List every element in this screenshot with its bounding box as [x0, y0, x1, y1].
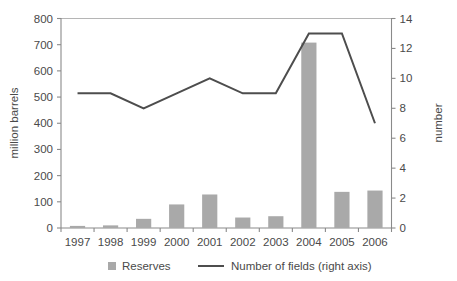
- legend-label-reserves: Reserves: [122, 260, 171, 272]
- reserves-bar: [268, 216, 283, 228]
- number-of-fields-line-series: [78, 33, 375, 123]
- reserves-bar: [136, 219, 151, 228]
- right-axis-tick-labels: 02468101214: [400, 13, 413, 235]
- reserves-bar: [169, 204, 184, 228]
- x-tick-label: 2001: [197, 236, 223, 248]
- reserves-bar: [202, 194, 217, 228]
- left-tick-label: 300: [34, 143, 53, 155]
- right-tick-label: 8: [400, 102, 406, 114]
- x-tick-label: 2000: [164, 236, 190, 248]
- x-tick-label: 2006: [362, 236, 388, 248]
- x-tick-label: 2004: [296, 236, 322, 248]
- right-axis-ticks: [392, 19, 396, 229]
- left-axis-title: million barrels: [8, 87, 20, 158]
- left-tick-label: 800: [34, 13, 53, 25]
- left-tick-label: 100: [34, 196, 53, 208]
- left-tick-label: 200: [34, 170, 53, 182]
- right-tick-label: 10: [400, 72, 413, 84]
- left-tick-label: 0: [47, 222, 53, 234]
- x-axis-tick-labels: 1997199819992000200120022003200420052006: [65, 236, 388, 248]
- right-tick-label: 6: [400, 132, 406, 144]
- right-axis-title: number: [432, 103, 444, 142]
- legend-label-number-of-fields: Number of fields (right axis): [231, 260, 372, 272]
- chart-legend: Reserves Number of fields (right axis): [108, 260, 372, 272]
- reserves-bar-series: [70, 43, 383, 228]
- reserves-bar: [301, 43, 316, 228]
- left-tick-label: 700: [34, 39, 53, 51]
- x-tick-label: 2003: [263, 236, 289, 248]
- x-tick-label: 2002: [230, 236, 256, 248]
- x-tick-label: 1999: [131, 236, 157, 248]
- x-tick-label: 2005: [329, 236, 355, 248]
- right-tick-label: 2: [400, 192, 406, 204]
- reserves-bar: [334, 192, 349, 228]
- left-tick-label: 500: [34, 91, 53, 103]
- legend-swatch-reserves: [108, 262, 116, 270]
- reserves-bar: [103, 225, 118, 228]
- right-tick-label: 0: [400, 222, 406, 234]
- x-tick-label: 1998: [98, 236, 124, 248]
- left-tick-label: 400: [34, 117, 53, 129]
- reserves-bar: [235, 218, 250, 228]
- left-tick-label: 600: [34, 65, 53, 77]
- right-tick-label: 4: [400, 162, 407, 174]
- chart-container: 0100200300400500600700800 02468101214 19…: [0, 0, 457, 281]
- reserves-and-fields-chart: 0100200300400500600700800 02468101214 19…: [0, 0, 457, 281]
- x-tick-label: 1997: [65, 236, 91, 248]
- right-tick-label: 12: [400, 42, 413, 54]
- bottom-axis-ticks: [61, 228, 392, 232]
- right-tick-label: 14: [400, 13, 413, 25]
- left-axis-tick-labels: 0100200300400500600700800: [34, 13, 53, 235]
- left-axis-ticks: [57, 19, 61, 229]
- reserves-bar: [70, 226, 85, 228]
- reserves-bar: [367, 191, 382, 228]
